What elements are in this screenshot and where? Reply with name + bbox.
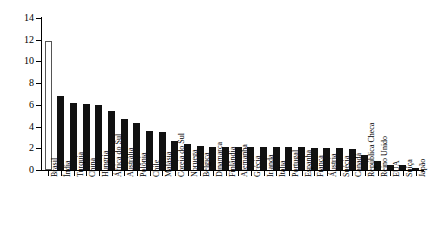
x-tick-label: Japão <box>419 159 427 177</box>
x-tick-label: Hungria <box>102 151 110 177</box>
x-tick-label: Reino Unido <box>381 136 389 177</box>
x-tick-label: Grécia <box>254 156 262 177</box>
x-tick-label: Suíça <box>406 159 414 177</box>
x-tick-label: Finlândia <box>229 147 237 177</box>
x-tick-label: Noruega <box>191 149 199 177</box>
bar-chart: 02468101214 BrasilÍndiaTurquiaChinaHungr… <box>0 0 433 241</box>
x-tick-label: Coreia do Sul <box>178 133 186 177</box>
x-tick-label: República Checa <box>368 123 376 177</box>
x-tick-label: França <box>317 155 325 177</box>
x-tick-label: Suécia <box>343 156 351 177</box>
x-tick-label: Canadá <box>355 153 363 177</box>
x-tick-label: EUA <box>393 161 401 177</box>
x-tick-label: Chile <box>153 160 161 177</box>
x-axis-labels: BrasilÍndiaTurquiaChinaHungriaÁfrica do … <box>0 0 433 241</box>
x-tick-label: Índia <box>64 161 72 177</box>
x-tick-label: Polônia <box>140 153 148 177</box>
x-tick-label: Dinamarca <box>216 142 224 177</box>
x-tick-label: Espanha <box>305 150 313 177</box>
x-tick-label: China <box>89 158 97 177</box>
x-tick-label: Irlanda <box>267 154 275 177</box>
x-tick-label: Bélgica <box>203 153 211 177</box>
x-tick-label: Brasil <box>51 158 59 177</box>
x-tick-label: Áustria <box>330 153 338 177</box>
x-tick-label: Alemanha <box>241 144 249 177</box>
x-tick-label: Turquia <box>77 152 85 177</box>
x-tick-label: Portugal <box>292 150 300 177</box>
x-tick-label: Austrália <box>127 148 135 177</box>
x-tick-label: Malásia <box>165 152 173 177</box>
x-tick-label: África do Sul <box>115 134 123 177</box>
x-tick-label: Itália <box>279 161 287 177</box>
